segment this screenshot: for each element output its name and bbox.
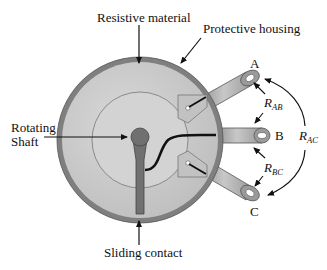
r-bc-label: RBC [264, 161, 283, 179]
protective-housing-label: Protective housing [203, 22, 300, 36]
r-bc-arrow-up [254, 148, 265, 158]
terminal-c-label: C [250, 205, 259, 219]
sliding-contact-label: Sliding contact [104, 246, 182, 260]
r-ab-arrow-up [254, 83, 265, 94]
rotating-shaft-label-line1: Rotating [11, 121, 56, 135]
terminal-a-label: A [250, 57, 259, 71]
r-ab-label: RAB [264, 96, 282, 114]
r-bc-arrow-down [255, 176, 263, 186]
protective-housing-arrow [181, 38, 201, 63]
rotating-shaft [131, 128, 149, 146]
resistive-material-label: Resistive material [97, 11, 191, 25]
r-ac-label: RAC [299, 129, 318, 147]
terminal-b-label: B [275, 129, 284, 143]
rotating-shaft-label-line2: Shaft [11, 135, 38, 149]
r-ab-arrow-down [255, 113, 263, 123]
